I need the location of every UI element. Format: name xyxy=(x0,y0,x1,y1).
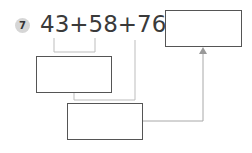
problem-number-badge: 7 xyxy=(15,18,30,33)
arrow-line xyxy=(142,52,203,121)
first-sum-box[interactable] xyxy=(36,56,112,93)
answer-box[interactable] xyxy=(165,10,242,47)
math-expression: 43+58+76= xyxy=(40,10,186,38)
bracket-43-58 xyxy=(54,38,95,52)
arrow-head-icon xyxy=(199,47,207,54)
second-sum-box[interactable] xyxy=(67,103,143,140)
